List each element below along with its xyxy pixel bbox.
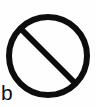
panel-label: b [1, 81, 19, 105]
prohibition-slash-icon [20, 28, 76, 84]
figure-panel: b [0, 0, 96, 107]
